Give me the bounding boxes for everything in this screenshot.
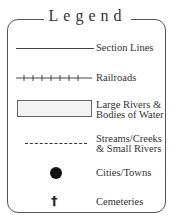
cemetery-cross-icon: †	[51, 193, 58, 208]
stream-line-icon	[25, 143, 87, 144]
city-dot-icon	[50, 167, 62, 179]
section-line-icon	[16, 48, 94, 49]
legend-label: Cemeteries	[96, 197, 143, 207]
legend-label: Railroads	[96, 73, 136, 83]
railroad-icon	[16, 72, 92, 84]
legend-label: Section Lines	[96, 43, 153, 53]
legend-label-line2: & Small Rivers	[96, 144, 161, 154]
legend-title: Legend	[44, 7, 132, 25]
legend-label: Cities/Towns	[96, 168, 151, 178]
water-body-icon	[17, 100, 92, 117]
legend-label-line2: Bodies of Water	[96, 110, 164, 120]
